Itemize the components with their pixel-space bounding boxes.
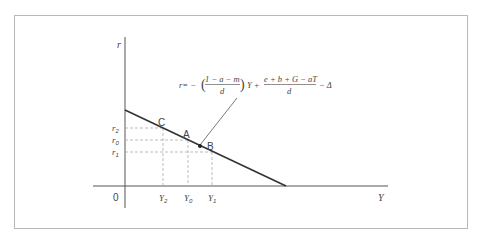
y-tick-r1: r1	[112, 147, 119, 158]
x-axis-label: Y	[378, 192, 385, 203]
marked-point	[198, 144, 202, 148]
point-c-label: C	[158, 117, 165, 128]
is-curve-diagram: r Y 0 C A B r2 r0 r1 Y2 Y0 Y1 r= − ( 1 −…	[0, 0, 481, 244]
y-tick-labels: r2 r0 r1	[112, 123, 120, 158]
right-paren: )	[240, 77, 245, 93]
x-tick-y2: Y2	[159, 193, 168, 204]
x-tick-labels: Y2 Y0 Y1	[159, 193, 216, 204]
frac2-denominator: d	[287, 86, 292, 96]
equation-tail: − Δ	[319, 80, 332, 90]
x-tick-y1: Y1	[208, 193, 216, 204]
origin-label: 0	[113, 192, 119, 203]
point-b-label: B	[207, 141, 214, 152]
equation-lhs: r= −	[179, 80, 196, 90]
equation-leader-line	[200, 98, 237, 145]
x-tick-y0: Y0	[184, 193, 193, 204]
is-curve-line	[125, 110, 286, 186]
frac1-denominator: d	[220, 86, 225, 96]
dashed-guides	[125, 128, 212, 186]
equation-mid: Y +	[247, 80, 260, 90]
y-tick-r0: r0	[112, 135, 120, 146]
y-tick-r2: r2	[112, 123, 120, 134]
frac2-numerator: e + b + G − aT	[264, 74, 318, 84]
is-equation: r= − ( 1 − a − m d ) Y + e + b + G − aT …	[179, 74, 332, 96]
point-a-label: A	[183, 129, 190, 140]
y-axis-label: r	[117, 39, 121, 50]
frac1-numerator: 1 − a − m	[205, 74, 240, 84]
